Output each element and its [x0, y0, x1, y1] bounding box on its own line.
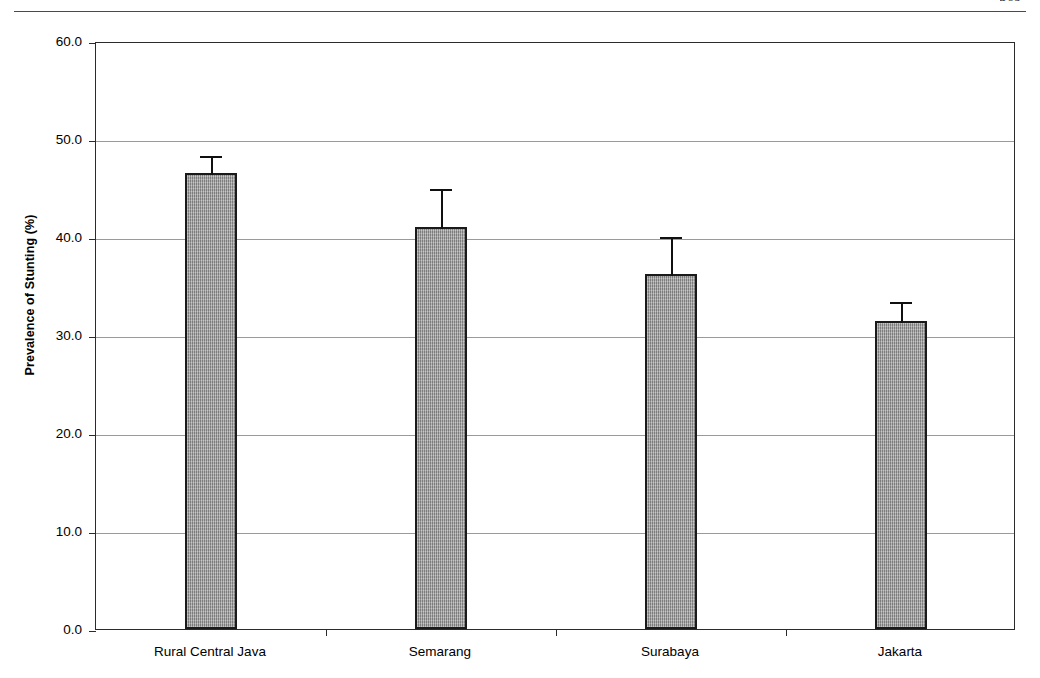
x-tick-mark — [326, 629, 327, 636]
bar — [645, 274, 697, 629]
error-bar-stem — [671, 237, 673, 276]
y-tick-label: 50.0 — [30, 133, 82, 147]
gridline — [96, 141, 1014, 142]
page-header: 569 — [0, 0, 1040, 16]
error-bar-cap — [660, 237, 682, 239]
y-tick-mark — [89, 337, 96, 338]
y-tick-label: 0.0 — [30, 623, 82, 637]
y-tick-mark — [89, 239, 96, 240]
x-tick-label: Semarang — [330, 644, 550, 659]
error-bar-stem — [441, 189, 443, 229]
x-tick-label: Jakarta — [790, 644, 1010, 659]
y-tick-label: 60.0 — [30, 35, 82, 49]
x-tick-mark — [556, 629, 557, 636]
y-axis-tick-labels: 0.010.020.030.040.050.060.0 — [30, 16, 82, 678]
bar — [875, 321, 927, 629]
y-tick-label: 20.0 — [30, 427, 82, 441]
y-tick-label: 40.0 — [30, 231, 82, 245]
y-tick-label: 10.0 — [30, 525, 82, 539]
x-tick-label: Rural Central Java — [100, 644, 320, 659]
error-bar-cap — [890, 302, 912, 304]
x-tick-mark — [786, 629, 787, 636]
error-bar-stem — [211, 156, 213, 176]
y-tick-mark — [89, 435, 96, 436]
header-rule — [14, 11, 1026, 12]
page-number: 569 — [1000, 0, 1023, 2]
plot-area — [95, 42, 1015, 630]
y-tick-mark — [89, 43, 96, 44]
y-tick-mark — [89, 631, 96, 632]
bar — [415, 227, 467, 629]
x-tick-label: Surabaya — [560, 644, 780, 659]
y-tick-label: 30.0 — [30, 329, 82, 343]
error-bar-stem — [901, 302, 903, 324]
y-tick-mark — [89, 533, 96, 534]
y-tick-mark — [89, 141, 96, 142]
error-bar-cap — [200, 156, 222, 158]
error-bar-cap — [430, 189, 452, 191]
bar — [185, 173, 237, 629]
bar-chart-figure: Prevalence of Stunting (%) 0.010.020.030… — [0, 16, 1040, 678]
